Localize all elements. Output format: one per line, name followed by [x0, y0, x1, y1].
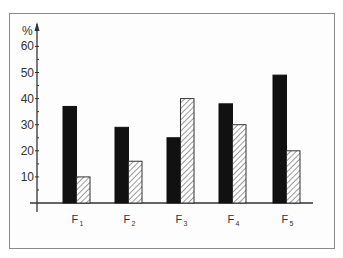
- bar-f2-hatched: [129, 161, 143, 203]
- y-tick-label: 60: [21, 39, 35, 53]
- y-axis-arrow-icon: [35, 22, 40, 31]
- x-label-subscript: 4: [236, 220, 240, 227]
- x-label-f1: F: [72, 213, 79, 225]
- x-label-subscript: 1: [80, 220, 84, 227]
- y-tick-label: 50: [21, 66, 35, 80]
- bar-f4-hatched: [233, 125, 247, 203]
- bar-f5-solid: [273, 75, 287, 203]
- bar-f3-hatched: [181, 99, 195, 203]
- x-label-f5: F: [282, 213, 289, 225]
- bar-f1-hatched: [77, 177, 91, 203]
- x-label-f2: F: [124, 213, 131, 225]
- y-tick-label: 10: [21, 170, 35, 184]
- x-axis-labels: F1F2F3F4F5: [72, 213, 294, 227]
- bar-f4-solid: [219, 104, 233, 203]
- bar-f5-hatched: [287, 151, 301, 203]
- x-label-subscript: 2: [132, 220, 136, 227]
- bar-chart: %102030405060 F1F2F3F4F5: [0, 0, 343, 258]
- bar-f3-solid: [167, 138, 181, 203]
- bars-group: [63, 75, 300, 203]
- y-tick-label: 40: [21, 92, 35, 106]
- bar-f1-solid: [63, 106, 77, 203]
- x-label-f4: F: [228, 213, 235, 225]
- x-label-f3: F: [176, 213, 183, 225]
- x-label-subscript: 5: [290, 220, 294, 227]
- bar-f2-solid: [115, 127, 129, 203]
- y-tick-label: 30: [21, 118, 35, 132]
- y-tick-label: 20: [21, 144, 35, 158]
- x-label-subscript: 3: [184, 220, 188, 227]
- y-axis-unit-label: %: [22, 24, 33, 38]
